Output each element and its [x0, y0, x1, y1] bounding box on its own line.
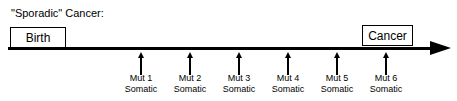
- marker-name: Mut 6: [346, 73, 426, 84]
- timeline-axis-line: [8, 47, 436, 50]
- timeline-arrowhead-icon: [430, 41, 451, 55]
- diagram-title: "Sporadic" Cancer:: [11, 7, 104, 20]
- marker-caption: Mut 6Somatic: [346, 73, 426, 94]
- birth-label-text: Birth: [26, 31, 51, 45]
- cancer-label-text: Cancer: [368, 29, 407, 43]
- birth-label-box: Birth: [10, 27, 66, 48]
- cancer-label-box: Cancer: [362, 25, 413, 46]
- sporadic-cancer-timeline-diagram: "Sporadic" Cancer: Birth Cancer Mut 1Som…: [0, 0, 457, 101]
- marker-type: Somatic: [346, 84, 426, 95]
